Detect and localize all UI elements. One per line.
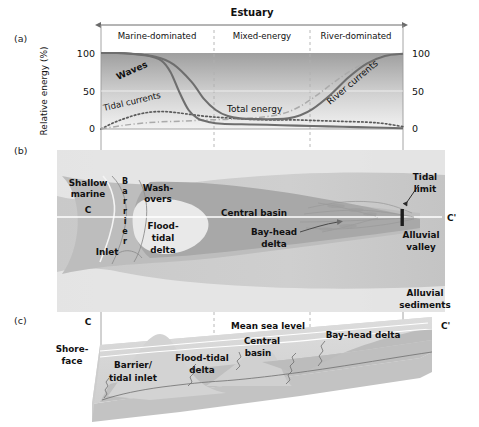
figure-canvas: Estuary Marine-dominated Mixed-energy Ri… xyxy=(0,0,479,427)
curve-label-total-energy: Total energy xyxy=(226,104,283,114)
map-label-tidal-limit-line2: limit xyxy=(414,184,436,194)
y-tick-left-50: 50 xyxy=(83,86,95,97)
y-tick-right-0: 0 xyxy=(412,123,418,134)
map-label-alluvial-sediments-line2: sediments xyxy=(399,300,450,310)
y-tick-left-0: 0 xyxy=(89,123,95,134)
svg-text:r: r xyxy=(123,197,127,206)
estuary-title: Estuary xyxy=(231,7,274,18)
zone-label-marine-dominated: Marine-dominated xyxy=(118,31,197,41)
svg-text:r: r xyxy=(123,207,127,216)
map-label-flood-tidal-delta-line3: delta xyxy=(150,245,175,255)
map-label-alluvial-valley-line1: Alluvial xyxy=(403,230,440,240)
map-label-shallow-marine-line2: marine xyxy=(71,189,106,199)
section-label-flood-tidal-delta-line1: Flood-tidal xyxy=(175,353,229,363)
panel-c-cross-section: C C' Shore- face Barrier/ tidal inlet Fl… xyxy=(56,317,451,422)
map-label-tidal-limit-line1: Tidal xyxy=(413,172,437,182)
zone-label-mixed-energy: Mixed-energy xyxy=(233,31,291,41)
map-label-washovers-line1: Wash- xyxy=(143,183,174,193)
section-label-barrier-tidal-inlet-line2: tidal inlet xyxy=(109,373,157,383)
map-label-washovers-line2: overs xyxy=(144,194,171,204)
section-label-c-prime: C' xyxy=(441,321,450,331)
section-label-central-basin-line1: Central xyxy=(244,336,280,346)
map-label-central-basin: Central basin xyxy=(221,208,287,218)
map-label-section-c: C xyxy=(85,205,92,215)
map-label-alluvial-valley-line2: valley xyxy=(406,242,436,252)
y-tick-left-100: 100 xyxy=(77,48,95,59)
map-tidal-limit-marker xyxy=(401,209,404,226)
panel-label-b: (b) xyxy=(14,145,27,156)
section-label-bay-head-delta: Bay-head delta xyxy=(326,330,401,340)
zone-label-river-dominated: River-dominated xyxy=(320,31,391,41)
map-label-inlet: Inlet xyxy=(96,247,119,257)
svg-text:a: a xyxy=(122,187,127,196)
section-label-shoreface-line1: Shore- xyxy=(56,344,89,354)
section-label-barrier-tidal-inlet-line1: Barrier/ xyxy=(114,360,153,370)
map-label-alluvial-sediments-line1: Alluvial xyxy=(407,288,444,298)
map-label-flood-tidal-delta-line1: Flood- xyxy=(147,221,178,231)
svg-text:r: r xyxy=(123,237,127,246)
map-label-shallow-marine-line1: Shallow xyxy=(69,178,108,188)
panel-b-map-view: Shallow marine C C' B a r r i e r Wash- … xyxy=(57,150,456,312)
section-label-c: C xyxy=(85,317,92,327)
y-tick-right-100: 100 xyxy=(412,48,430,59)
map-label-bay-head-delta-line2: delta xyxy=(261,239,286,249)
map-label-flood-tidal-delta-line2: tidal xyxy=(152,233,174,243)
y-tick-right-50: 50 xyxy=(412,86,424,97)
figure-estuary-facies-model: (a) (b) (c) xyxy=(0,0,479,427)
panel-label-c: (c) xyxy=(14,315,27,326)
map-label-bay-head-delta-line1: Bay-head xyxy=(251,227,297,237)
section-label-central-basin-line2: basin xyxy=(245,348,272,358)
y-axis-title: Relative energy (%) xyxy=(39,47,49,136)
svg-text:i: i xyxy=(124,217,127,226)
map-label-section-c-prime: C' xyxy=(447,213,456,223)
svg-text:B: B xyxy=(122,177,128,186)
section-label-flood-tidal-delta-line2: delta xyxy=(189,365,214,375)
panel-label-a: (a) xyxy=(14,33,27,44)
section-label-mean-sea-level: Mean sea level xyxy=(231,321,305,331)
section-label-shoreface-line2: face xyxy=(62,356,83,366)
svg-text:e: e xyxy=(122,227,128,236)
